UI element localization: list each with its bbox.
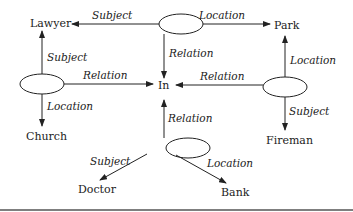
node-bank: Bank (221, 186, 250, 199)
svg-text:Relation: Relation (167, 112, 213, 124)
node-park: Park (274, 19, 300, 32)
diagram-svg: Subject Location Relation Subject Relati… (0, 0, 353, 212)
edge-top-location-park: Location (198, 9, 270, 24)
node-lawyer: Lawyer (30, 17, 72, 30)
edge-bottom-location-bank: Location (176, 155, 253, 183)
svg-text:Relation: Relation (168, 47, 214, 59)
proposition-node-right (263, 77, 307, 97)
svg-text:Location: Location (46, 100, 93, 112)
svg-text:Subject: Subject (47, 51, 88, 63)
svg-text:Subject: Subject (92, 9, 133, 21)
edge-right-relation-in: Relation (176, 70, 263, 85)
proposition-node-top (159, 14, 203, 34)
svg-text:Relation: Relation (199, 70, 245, 82)
edge-bottom-subject-doctor: Subject (90, 154, 147, 180)
edge-top-subject-lawyer: Subject (72, 9, 159, 24)
edge-right-subject-fireman: Subject (285, 97, 330, 130)
svg-text:Subject: Subject (289, 105, 330, 117)
proposition-node-bottom (166, 138, 210, 158)
svg-text:Location: Location (206, 157, 253, 169)
svg-text:Location: Location (198, 9, 245, 21)
svg-text:Relation: Relation (82, 69, 128, 81)
edge-left-location-church: Location (42, 94, 93, 126)
edge-left-relation-in: Relation (64, 69, 153, 84)
edge-right-location-park: Location (285, 36, 336, 77)
edge-bottom-relation-in: Relation (164, 100, 213, 138)
node-in: In (158, 79, 169, 92)
svg-text:Location: Location (289, 54, 336, 66)
svg-text:Subject: Subject (90, 155, 131, 167)
edge-left-subject-lawyer: Subject (42, 31, 88, 74)
semantic-network-diagram: Subject Location Relation Subject Relati… (0, 0, 353, 212)
node-doctor: Doctor (78, 183, 117, 196)
proposition-node-left (20, 74, 64, 94)
node-fireman: Fireman (266, 134, 313, 147)
node-church: Church (26, 130, 67, 143)
